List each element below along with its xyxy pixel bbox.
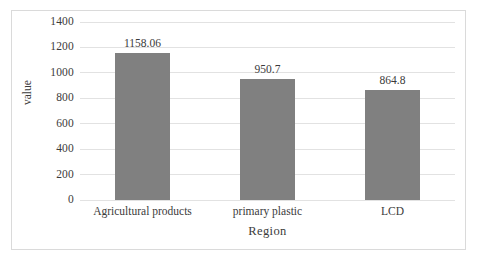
- bar-chart-figure: value 0200400600800100012001400 1158.069…: [0, 0, 479, 266]
- y-axis-tick-label: 1200: [8, 42, 74, 54]
- bar[interactable]: [365, 90, 420, 200]
- bar-value-label: 1158.06: [124, 38, 161, 50]
- x-axis-tick-label: primary plastic: [233, 204, 302, 219]
- y-axis-tick-label: 1000: [8, 67, 74, 79]
- bar[interactable]: [115, 53, 170, 200]
- bar-value-label: 864.8: [380, 75, 406, 87]
- y-axis-tick-label: 1400: [8, 16, 74, 28]
- x-axis-tick-labels: Agricultural productsprimary plasticLCD: [80, 204, 455, 222]
- x-axis-tick-label: Agricultural products: [93, 204, 192, 219]
- y-axis-tick-label: 400: [8, 143, 74, 155]
- bar[interactable]: [240, 79, 295, 200]
- bar-value-label: 950.7: [255, 64, 281, 76]
- x-axis-title: Region: [80, 224, 455, 239]
- y-axis-tick-label: 0: [8, 194, 74, 206]
- x-axis-tick-label: LCD: [381, 204, 404, 219]
- gridline: [80, 22, 455, 23]
- y-axis-tick-label: 800: [8, 93, 74, 105]
- y-axis-tick-label: 200: [8, 169, 74, 181]
- y-axis-tick-label: 600: [8, 118, 74, 130]
- y-axis-tick-labels: 0200400600800100012001400: [8, 22, 74, 200]
